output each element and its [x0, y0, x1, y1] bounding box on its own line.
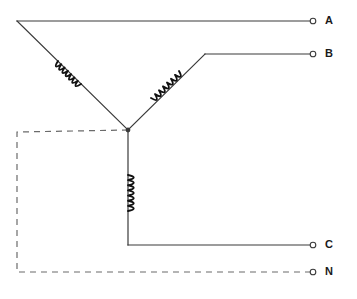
wye-winding-diagram: A B C N [0, 0, 357, 299]
wire-group [17, 21, 313, 245]
terminal-label-b: B [325, 48, 333, 59]
phase-c-coil [128, 175, 134, 211]
phase-b-winding-leg [128, 54, 205, 130]
neutral-dashed-path [17, 130, 313, 272]
phase-a-coil [56, 61, 81, 86]
star-point-junction [126, 128, 131, 133]
coil-group [56, 61, 181, 211]
terminal-node-b[interactable] [310, 51, 316, 57]
terminal-nodes-group [310, 18, 316, 275]
terminal-node-c[interactable] [310, 242, 316, 248]
star-point-dot [126, 128, 131, 133]
phase-a-winding-leg [17, 21, 128, 130]
terminal-label-n: N [325, 266, 333, 277]
terminal-label-c: C [325, 239, 333, 250]
neutral-wire-group [17, 130, 313, 272]
schematic-canvas [0, 0, 357, 299]
terminal-node-a[interactable] [310, 18, 316, 24]
terminal-label-a: A [325, 15, 333, 26]
phase-b-coil [151, 71, 181, 100]
terminal-node-n[interactable] [310, 269, 316, 275]
